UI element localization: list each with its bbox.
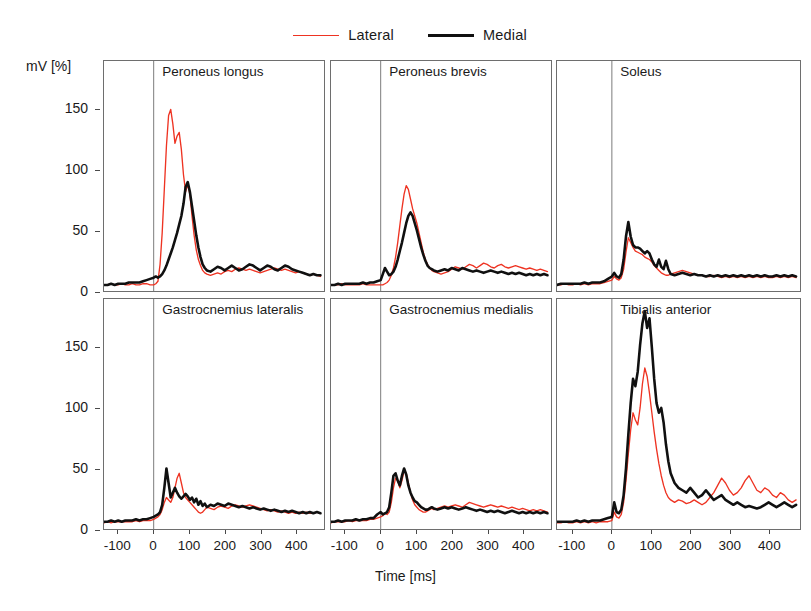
- x-tick-mark: [572, 530, 573, 534]
- y-tick-label: 150: [42, 338, 88, 354]
- y-tick-mark: [95, 347, 100, 348]
- x-tick-mark: [344, 530, 345, 534]
- x-tick-mark: [611, 530, 612, 534]
- emg-figure: Lateral Medial mV [%] Time [ms] Peroneus…: [0, 0, 811, 611]
- legend-label-lateral: Lateral: [348, 27, 394, 43]
- legend-swatch-lateral: [293, 35, 339, 36]
- y-tick-label: 0: [42, 521, 88, 537]
- panel-soleus: Soleus: [556, 60, 801, 292]
- trace-lateral: [331, 471, 547, 523]
- x-tick-mark: [380, 530, 381, 534]
- legend: Lateral Medial: [228, 22, 592, 48]
- x-tick-label: 400: [273, 538, 319, 553]
- y-tick-mark: [95, 469, 100, 470]
- y-tick-label: 50: [42, 460, 88, 476]
- y-tick-label: 50: [42, 222, 88, 238]
- y-tick-mark: [95, 408, 100, 409]
- trace-medial: [557, 222, 796, 285]
- x-tick-mark: [651, 530, 652, 534]
- x-tick-mark: [730, 530, 731, 534]
- y-axis-title: mV [%]: [26, 58, 71, 74]
- y-tick-label: 100: [42, 161, 88, 177]
- y-tick-mark: [95, 292, 100, 293]
- y-tick-label: 150: [42, 100, 88, 116]
- x-tick-label: 400: [746, 538, 792, 553]
- y-tick-mark: [95, 109, 100, 110]
- x-tick-mark: [189, 530, 190, 534]
- x-tick-label: 400: [500, 538, 546, 553]
- x-tick-mark: [523, 530, 524, 534]
- trace-medial: [104, 182, 320, 285]
- trace-lateral: [104, 109, 320, 285]
- panel-gastrocnemius-medialis: Gastrocnemius medialis: [330, 298, 552, 530]
- trace-lateral: [557, 238, 796, 285]
- trace-medial: [331, 468, 547, 521]
- panel-peroneus-longus: Peroneus longus: [103, 60, 325, 292]
- panel-gastrocnemius-lateralis: Gastrocnemius lateralis: [103, 298, 325, 530]
- panel-peroneus-brevis: Peroneus brevis: [330, 60, 552, 292]
- x-tick-mark: [117, 530, 118, 534]
- x-tick-mark: [225, 530, 226, 534]
- panel-tibialis-anterior: Tibialis anterior: [556, 298, 801, 530]
- x-tick-mark: [452, 530, 453, 534]
- y-tick-mark: [95, 231, 100, 232]
- y-tick-mark: [95, 530, 100, 531]
- legend-entry-medial: Medial: [428, 27, 527, 43]
- trace-lateral: [557, 368, 796, 523]
- x-tick-mark: [690, 530, 691, 534]
- y-tick-label: 0: [42, 283, 88, 299]
- legend-label-medial: Medial: [483, 27, 527, 43]
- x-tick-mark: [769, 530, 770, 534]
- x-tick-mark: [153, 530, 154, 534]
- x-tick-mark: [296, 530, 297, 534]
- x-tick-mark: [416, 530, 417, 534]
- trace-lateral: [104, 473, 320, 523]
- legend-entry-lateral: Lateral: [293, 27, 394, 43]
- legend-swatch-medial: [428, 34, 474, 37]
- x-tick-mark: [488, 530, 489, 534]
- y-tick-mark: [95, 170, 100, 171]
- y-tick-label: 100: [42, 399, 88, 415]
- x-axis-title: Time [ms]: [0, 568, 811, 584]
- x-tick-mark: [261, 530, 262, 534]
- trace-medial: [557, 311, 796, 522]
